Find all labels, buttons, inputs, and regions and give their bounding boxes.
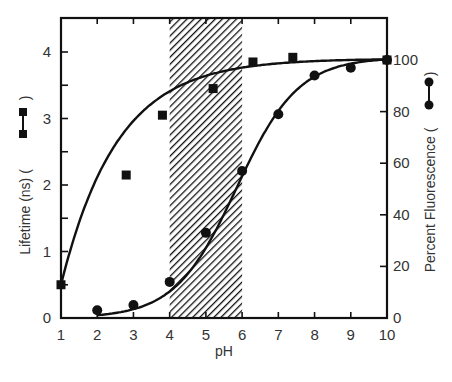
shaded-region xyxy=(170,18,242,318)
x-tick-label: 2 xyxy=(93,326,101,343)
left-tick-label: 0 xyxy=(43,309,51,326)
right-tick-label: 0 xyxy=(393,309,401,326)
circle-marker xyxy=(237,166,247,176)
square-marker xyxy=(158,111,167,120)
circle-marker xyxy=(201,228,211,238)
left-tick-label: 2 xyxy=(43,176,51,193)
right-tick-label: 20 xyxy=(393,257,410,274)
right-tick-label: 40 xyxy=(393,206,410,223)
left-axis-label: Lifetime (ns) ( xyxy=(17,169,33,255)
left-axis-label-text: Lifetime (ns) ( xyxy=(17,169,33,255)
x-tick-label: 6 xyxy=(238,326,246,343)
right-axis-close-paren: ) xyxy=(422,72,438,77)
circle-marker xyxy=(346,63,356,73)
right-tick-label: 100 xyxy=(393,51,418,68)
chart: 12345678910 01234 020406080100 pH Lifeti… xyxy=(0,0,452,382)
left-tick-label: 4 xyxy=(43,43,51,60)
x-tick-label: 7 xyxy=(274,326,282,343)
right-axis-label-text: Percent Fluorescence ( xyxy=(422,127,438,272)
square-marker xyxy=(57,280,66,289)
circle-marker xyxy=(382,55,392,65)
x-tick-label: 3 xyxy=(129,326,137,343)
x-tick-label: 1 xyxy=(57,326,65,343)
right-tick-label: 60 xyxy=(393,154,410,171)
right-axis-label: Percent Fluorescence ( xyxy=(422,127,438,272)
square-marker xyxy=(209,84,218,93)
x-tick-label: 4 xyxy=(165,326,173,343)
square-marker xyxy=(248,57,257,66)
x-tick-label: 8 xyxy=(310,326,318,343)
square-marker xyxy=(288,53,297,62)
left-tick-label: 1 xyxy=(43,243,51,260)
circle-marker xyxy=(273,109,283,119)
left-axis-close-paren: ) xyxy=(17,96,33,101)
x-tick-label: 9 xyxy=(347,326,355,343)
x-axis-label: pH xyxy=(215,343,233,359)
circle-marker xyxy=(165,277,175,287)
x-tick-label: 5 xyxy=(202,326,210,343)
square-marker xyxy=(122,171,131,180)
right-tick-label: 80 xyxy=(393,103,410,120)
circle-marker xyxy=(92,305,102,315)
right-axis-ticks: 020406080100 xyxy=(380,51,418,326)
circle-marker xyxy=(128,300,138,310)
right-legend-circle-icon xyxy=(425,78,434,110)
left-tick-label: 3 xyxy=(43,110,51,127)
left-legend-square-icon xyxy=(19,108,27,138)
x-tick-label: 10 xyxy=(379,326,396,343)
circle-marker xyxy=(310,70,320,80)
